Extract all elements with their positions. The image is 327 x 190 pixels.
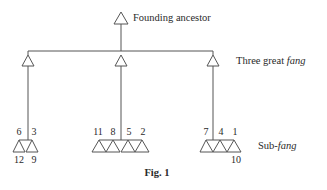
sub-fang-triangle (135, 140, 149, 152)
sub-fang-number: 8 (111, 127, 116, 137)
kinship-tree (0, 0, 327, 190)
founding-ancestor-triangle (114, 12, 128, 24)
sub-fang-label: Sub-fang (258, 141, 297, 152)
sub-fang-triangle (13, 140, 25, 152)
sub-fang-number: 7 (204, 127, 209, 137)
great-fang-triangle-2 (115, 55, 127, 66)
sub-fang-number: 11 (93, 127, 103, 137)
sub-fang-number: 6 (17, 127, 22, 137)
sub-fang-number: 10 (231, 155, 241, 165)
sub-fang-triangle (227, 140, 241, 152)
sub-fang-triangle (121, 140, 135, 152)
great-fang-label: Three great fang (236, 56, 305, 67)
sub-fang-number: 2 (141, 127, 146, 137)
sub-fang-number: 1 (233, 127, 238, 137)
sub-fang-number: 12 (14, 155, 24, 165)
sub-fang-number: 4 (219, 127, 224, 137)
sub-fang-triangle (106, 140, 120, 152)
sub-fang-number: 3 (32, 127, 37, 137)
sub-fang-number: 5 (127, 127, 132, 137)
great-fang-triangle-3 (207, 55, 219, 66)
sub-fang-triangle (26, 140, 38, 152)
sub-fang-triangle (200, 140, 213, 152)
sub-fang-triangle (213, 140, 227, 152)
founding-ancestor-label: Founding ancestor (133, 13, 211, 24)
sub-fang-triangle (92, 140, 106, 152)
figure-caption: Fig. 1 (144, 167, 169, 178)
sub-fang-number: 9 (32, 155, 37, 165)
great-fang-triangle-1 (22, 55, 34, 66)
